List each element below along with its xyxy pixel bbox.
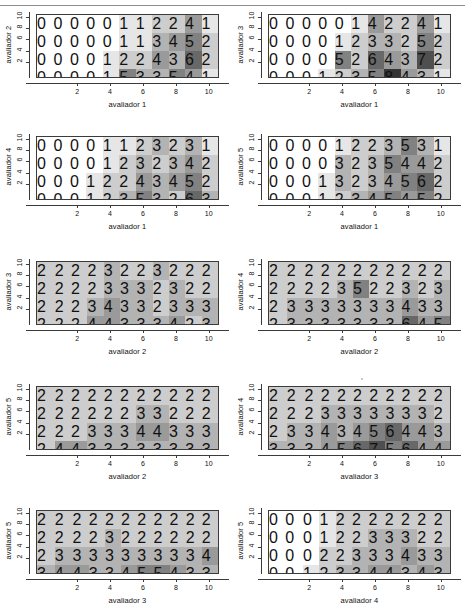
heatmap-cell: 4 <box>87 316 103 325</box>
y-tick-label: 10 <box>16 131 23 143</box>
y-axis-label: avaliador 4 <box>236 386 245 448</box>
y-tick-mark <box>26 400 29 401</box>
y-tick-label: 4 <box>248 290 255 302</box>
y-tick-label: 6 <box>248 279 255 291</box>
y-tick-mark <box>258 17 261 18</box>
x-tick-mark <box>209 330 210 333</box>
heatmap-cell: 0 <box>302 51 318 69</box>
heatmap-cell: 2 <box>37 316 55 325</box>
y-axis-line <box>261 384 262 450</box>
heatmap-cell: 2 <box>351 173 367 191</box>
heatmap-cell: 2 <box>336 511 352 529</box>
heatmap-cell: 3 <box>153 441 169 450</box>
y-tick-label: 8 <box>16 393 23 405</box>
heatmap-cell: 3 <box>136 298 152 316</box>
heatmap-cell: 2 <box>335 69 351 78</box>
heatmap-cell: 1 <box>318 69 334 78</box>
heatmap-cell: 3 <box>434 547 450 565</box>
y-tick-mark <box>258 535 261 536</box>
y-tick-mark <box>26 389 29 390</box>
x-tick-mark <box>176 330 177 333</box>
y-tick-mark <box>26 161 29 162</box>
heatmap-cell: 0 <box>269 173 285 191</box>
heatmap-cell: 2 <box>202 155 218 173</box>
x-tick-label: 2 <box>297 584 321 591</box>
heatmap-cell: 3 <box>105 529 121 547</box>
heatmap-cell: 4 <box>185 155 201 173</box>
y-axis-label: avaliador 4 <box>236 261 245 323</box>
y-tick-label: 2 <box>16 550 23 562</box>
heatmap-cell: 0 <box>285 51 301 69</box>
heatmap-cell: 4 <box>418 423 434 441</box>
heatmap-cell: 2 <box>104 387 120 405</box>
heatmap-panel-p1: 0000011224100000113452000012243620000153… <box>0 0 232 122</box>
y-tick-label: 2 <box>248 550 255 562</box>
y-tick-label: 8 <box>248 517 255 529</box>
heatmap-cell: 3 <box>385 547 401 565</box>
heatmap-cell: 2 <box>55 316 71 325</box>
heatmap-cell: 4 <box>401 191 417 200</box>
heatmap-cell: 5 <box>401 137 417 155</box>
y-tick-mark <box>258 161 261 162</box>
heatmap-cell: 3 <box>120 316 136 325</box>
y-axis-line <box>29 134 30 200</box>
heatmap-cell: 3 <box>202 441 218 450</box>
heatmap-cell: 4 <box>169 33 185 51</box>
heatmap-grid: 0000011224100000113452000012243620000153… <box>37 15 218 77</box>
x-tick-mark <box>342 330 343 333</box>
heatmap-cell: 2 <box>37 529 55 547</box>
x-tick-label: 6 <box>363 210 387 217</box>
heatmap-cell: 2 <box>418 387 434 405</box>
heatmap-cell: 3 <box>120 280 136 298</box>
x-tick-label: 6 <box>363 584 387 591</box>
heatmap-cell: 2 <box>269 262 287 280</box>
heatmap-cell: 0 <box>53 173 69 191</box>
y-axis-label: avaliador 5 <box>4 510 13 572</box>
heatmap-cell: 6 <box>417 173 433 191</box>
heatmap-cell: 4 <box>402 298 418 316</box>
y-tick-mark <box>26 411 29 412</box>
x-tick-label: 6 <box>363 88 387 95</box>
heatmap-cell: 0 <box>269 33 285 51</box>
heatmap-cell: 0 <box>53 137 69 155</box>
y-tick-label: 4 <box>16 290 23 302</box>
heatmap-cell: 2 <box>305 280 321 298</box>
heatmap-cell: 2 <box>119 51 135 69</box>
y-tick-mark <box>258 434 261 435</box>
heatmap-cell: 3 <box>119 191 135 200</box>
heatmap-cell: 2 <box>37 511 55 529</box>
heatmap-cell: 2 <box>202 405 218 423</box>
heatmap-cell: 3 <box>170 547 186 565</box>
x-axis-line <box>26 205 229 206</box>
heatmap-cell: 0 <box>318 51 334 69</box>
heatmap-cell: 0 <box>302 137 318 155</box>
x-tick-mark <box>408 579 409 582</box>
heatmap-cell: 1 <box>434 69 450 78</box>
y-axis-line <box>29 508 30 574</box>
heatmap-cell: 2 <box>369 387 385 405</box>
heatmap-cell: 0 <box>285 565 303 574</box>
x-tick-mark <box>342 83 343 86</box>
heatmap-cell: 2 <box>37 262 55 280</box>
heatmap-cell: 2 <box>55 280 71 298</box>
heatmap-cell: 3 <box>434 298 450 316</box>
x-tick-label: 6 <box>363 335 387 342</box>
heatmap-cell: 2 <box>434 405 450 423</box>
heatmap-cell: 2 <box>137 511 153 529</box>
y-tick-mark <box>26 547 29 548</box>
heatmap-cell: 2 <box>369 280 385 298</box>
heatmap-cell: 2 <box>37 280 55 298</box>
x-tick-mark <box>309 455 310 458</box>
heatmap-cell: 3 <box>152 69 168 78</box>
heatmap-cell: 3 <box>136 316 152 325</box>
heatmap-panel-p7: 2222222222222222233222222333443332443333… <box>0 372 232 496</box>
heatmap-cell: 2 <box>71 423 87 441</box>
heatmap-cell: 0 <box>86 15 102 33</box>
heatmap-cell: 1 <box>335 137 351 155</box>
y-tick-label: 10 <box>248 131 255 143</box>
y-tick-label: 6 <box>16 528 23 540</box>
heatmap-cell: 1 <box>119 33 135 51</box>
x-tick-label: 2 <box>297 88 321 95</box>
x-tick-label: 10 <box>429 460 453 467</box>
y-tick-label: 8 <box>248 393 255 405</box>
